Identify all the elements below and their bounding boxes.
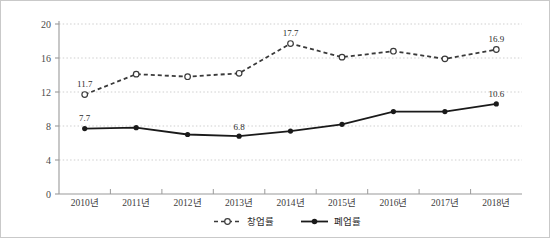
- data-point-marker: [494, 47, 500, 53]
- legend-open-circle-icon: [225, 219, 231, 225]
- x-tick-label-2017: 2017년: [431, 198, 459, 208]
- data-point-marker: [442, 109, 447, 114]
- y-tick-label: 4: [46, 155, 51, 166]
- data-label-pye-2013: 6.8: [233, 122, 245, 132]
- legend-filled-circle-icon: [312, 219, 318, 225]
- data-point-marker: [82, 126, 87, 131]
- data-point-marker: [237, 134, 242, 139]
- series-line-chang-eop-ryul: [85, 44, 497, 95]
- chart-figure: 20 16 12 8 4 0 2010년: [0, 0, 550, 238]
- data-point-marker: [134, 125, 139, 130]
- y-tick-label: 20: [41, 19, 51, 30]
- data-point-marker: [185, 132, 190, 137]
- data-label-chang-2010: 11.7: [77, 79, 93, 89]
- data-label-chang-2014: 17.7: [283, 28, 299, 38]
- line-chart-svg: 20 16 12 8 4 0 2010년: [1, 1, 550, 238]
- y-tick-label: 16: [41, 53, 51, 64]
- legend-item-chang-eop-ryul[interactable]: 창업률: [214, 216, 274, 227]
- x-tick-label-2010: 2010년: [71, 198, 99, 208]
- y-tick-label: 0: [46, 189, 51, 200]
- data-point-marker: [339, 122, 344, 127]
- data-point-marker: [339, 54, 345, 60]
- x-tick-label-2015: 2015년: [328, 198, 356, 208]
- data-point-marker: [185, 74, 191, 80]
- y-tick-label: 12: [41, 87, 51, 98]
- data-label-pye-2010: 7.7: [79, 113, 91, 123]
- data-point-marker: [494, 101, 499, 106]
- y-axis: [55, 21, 59, 194]
- data-point-marker: [236, 71, 242, 77]
- data-label-pye-2018: 10.6: [488, 89, 504, 99]
- x-tick-label-2016: 2016년: [379, 198, 407, 208]
- data-point-marker: [82, 92, 88, 98]
- data-point-marker: [391, 109, 396, 114]
- x-axis: [59, 189, 522, 194]
- data-label-chang-2018: 16.9: [488, 34, 504, 44]
- data-point-marker: [442, 56, 448, 62]
- x-tick-label-2011: 2011년: [122, 198, 150, 208]
- series-chang-eop-ryul: [82, 41, 499, 98]
- legend-label-pye-eop-ryul: 폐업률: [334, 216, 361, 227]
- y-tick-labels: 20 16 12 8 4 0: [41, 19, 51, 200]
- chart-legend: 창업률 폐업률: [214, 216, 361, 227]
- x-tick-labels: 2010년 2011년 2012년 2013년 2014년 2015년 2016…: [71, 198, 511, 208]
- x-tick-label-2018: 2018년: [482, 198, 510, 208]
- x-tick-label-2013: 2013년: [225, 198, 253, 208]
- data-point-marker: [133, 71, 139, 77]
- legend-item-pye-eop-ryul[interactable]: 폐업률: [301, 216, 361, 227]
- x-tick-label-2012: 2012년: [174, 198, 202, 208]
- y-tick-label: 8: [46, 121, 51, 132]
- legend-label-chang-eop-ryul: 창업률: [247, 216, 274, 227]
- data-point-marker: [391, 48, 397, 54]
- x-tick-label-2014: 2014년: [277, 198, 305, 208]
- data-point-marker: [288, 41, 294, 47]
- series-pye-eop-ryul: [82, 101, 499, 138]
- data-point-marker: [288, 129, 293, 134]
- plot-area: 20 16 12 8 4 0 2010년: [1, 1, 550, 238]
